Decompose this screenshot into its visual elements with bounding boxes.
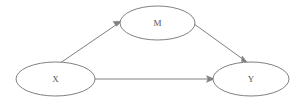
edge-x-to-m [58,21,122,64]
node-m-label: M [153,18,161,28]
arrowhead-into-y-from-m [242,56,248,63]
diagram-canvas: X M Y [0,0,302,101]
node-x-label: X [52,74,59,84]
edge-x-to-y [95,76,214,82]
edge-m-to-y-line [194,24,247,62]
node-y-label: Y [248,74,255,84]
node-y[interactable]: Y [213,62,289,96]
edge-x-to-m-line [58,22,121,65]
path-diagram: X M Y [0,0,302,101]
node-x[interactable]: X [16,62,95,96]
edge-m-to-y [194,24,248,63]
node-m[interactable]: M [120,6,195,40]
